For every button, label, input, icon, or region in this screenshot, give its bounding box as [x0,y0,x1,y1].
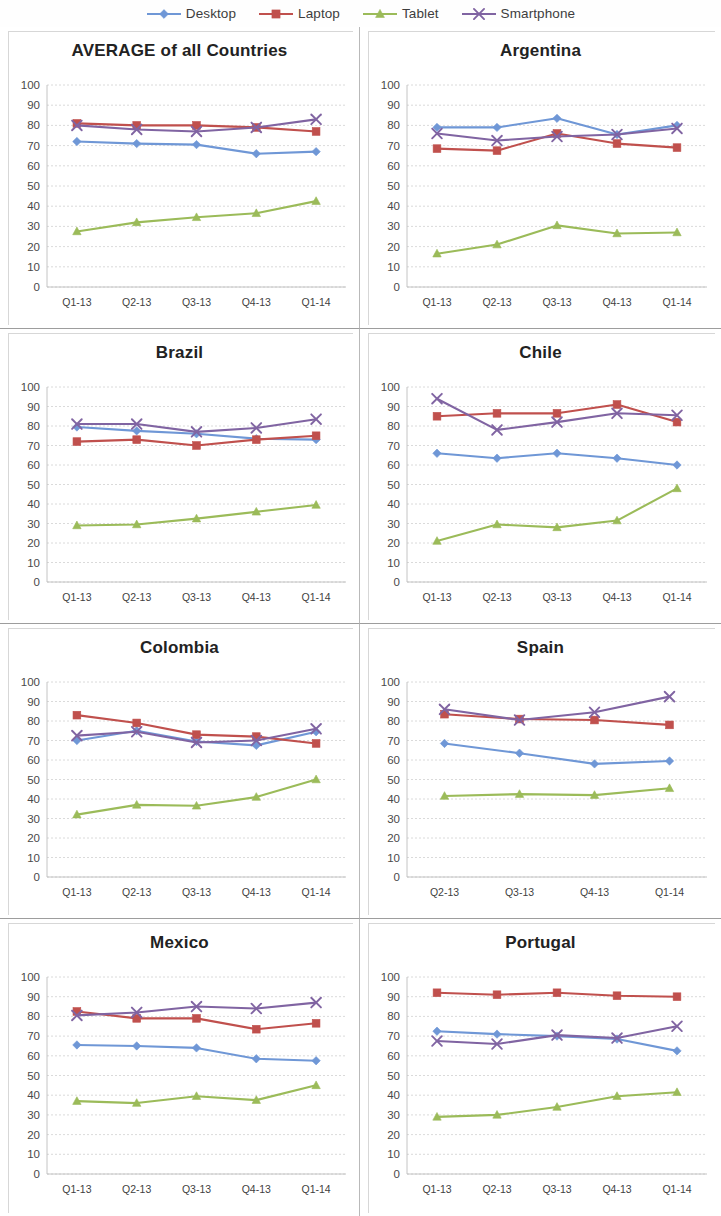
x-axis-tick: Q3-13 [542,591,571,603]
y-axis-tick: 80 [387,1010,400,1022]
x-axis-tick: Q1-14 [662,1183,691,1195]
series-desktop [73,137,321,158]
chart-title: Brazil [0,343,359,363]
y-axis-tick: 80 [387,119,400,131]
data-point [192,1044,200,1052]
data-point [673,993,681,1001]
y-axis-tick: 10 [387,852,400,864]
data-point [493,1030,501,1038]
legend-item-tablet[interactable]: Tablet [362,6,439,21]
y-axis-tick: 40 [387,200,400,212]
x-axis-tick: Q1-14 [302,886,331,898]
y-axis-tick: 90 [27,696,40,708]
data-point [252,436,260,444]
y-axis-tick: 10 [27,852,40,864]
y-axis-tick: 70 [27,140,40,152]
y-axis-tick: 30 [27,220,40,232]
data-point [73,438,81,446]
y-axis-tick: 10 [27,1148,40,1160]
y-axis-tick: 30 [387,1109,400,1121]
data-point [553,989,561,997]
y-axis-tick: 20 [27,1129,40,1141]
chart-title: Colombia [0,638,359,658]
y-axis-tick: 0 [394,1168,400,1180]
series-laptop [73,1008,320,1033]
y-axis-tick: 60 [387,754,400,766]
data-point [673,461,681,469]
chart-grid: AVERAGE of all Countries0102030405060708… [0,27,721,1216]
x-axis-tick: Q4-13 [602,591,631,603]
y-axis-tick: 60 [27,1050,40,1062]
y-axis-tick: 10 [387,1148,400,1160]
data-point [613,454,621,462]
x-axis-tick: Q1-14 [302,591,331,603]
y-axis-tick: 10 [27,557,40,569]
x-axis-tick: Q2-13 [482,296,511,308]
chart-panel-mexico: Mexico0102030405060708090100Q1-13Q2-13Q3… [0,919,360,1216]
data-point [673,484,681,492]
y-axis-tick: 80 [27,715,40,727]
legend-item-desktop[interactable]: Desktop [146,6,236,21]
series-tablet [73,1081,321,1106]
gridlines: 0102030405060708090100 [381,381,707,588]
y-axis-tick: 0 [34,1168,40,1180]
y-axis-tick: 90 [27,99,40,111]
x-axis-tick: Q1-13 [62,591,91,603]
x-axis-ticks: Q1-13Q2-13Q3-13Q4-13Q1-14 [422,1183,691,1195]
y-axis-tick: 100 [381,381,400,393]
data-point [553,449,561,457]
y-axis-tick: 40 [27,793,40,805]
x-axis-tick: Q4-13 [242,296,271,308]
data-point [673,144,681,152]
y-axis-tick: 40 [27,1089,40,1101]
x-axis-tick: Q1-13 [62,1183,91,1195]
y-axis-tick: 100 [21,79,40,91]
chart-panel-brazil: Brazil0102030405060708090100Q1-13Q2-13Q3… [0,329,360,624]
x-axis-tick: Q1-14 [662,591,691,603]
y-axis-tick: 0 [394,576,400,588]
y-axis-tick: 20 [27,537,40,549]
y-axis-tick: 60 [27,160,40,172]
series-tablet [73,197,321,235]
data-point [493,991,501,999]
data-point [73,711,81,719]
chart-panel-colombia: Colombia0102030405060708090100Q1-13Q2-13… [0,624,360,919]
x-axis-ticks: Q1-13Q2-13Q3-13Q4-13Q1-14 [62,591,331,603]
data-point [133,139,141,147]
y-axis-tick: 80 [27,119,40,131]
chart-legend: DesktopLaptopTabletSmartphone [0,0,721,27]
x-axis-ticks: Q1-13Q2-13Q3-13Q4-13Q1-14 [62,1183,331,1195]
data-point [133,436,141,444]
chart-title: Mexico [0,933,359,953]
gridlines: 0102030405060708090100 [381,676,707,883]
y-axis-tick: 0 [394,281,400,293]
y-axis-tick: 50 [27,1070,40,1082]
y-axis-tick: 100 [381,971,400,983]
y-axis-tick: 70 [387,735,400,747]
y-axis-tick: 60 [387,1050,400,1062]
series-desktop [440,739,673,768]
y-axis-tick: 40 [387,1089,400,1101]
y-axis-tick: 50 [387,774,400,786]
y-axis-tick: 50 [387,479,400,491]
x-axis-tick: Q1-13 [62,886,91,898]
gridlines: 0102030405060708090100 [21,971,346,1180]
x-axis-tick: Q1-14 [662,296,691,308]
data-point [493,123,501,131]
y-axis-tick: 90 [387,99,400,111]
legend-label: Tablet [402,6,439,21]
data-point [493,147,501,155]
data-point [433,412,441,420]
chart-title: AVERAGE of all Countries [0,41,359,61]
x-axis-tick: Q4-13 [242,886,271,898]
chart-title: Spain [360,638,721,658]
legend-item-smartphone[interactable]: Smartphone [461,6,576,21]
chart-plot: 0102030405060708090100Q1-13Q2-13Q3-13Q4-… [360,371,721,624]
y-axis-tick: 0 [34,871,40,883]
y-axis-tick: 30 [27,1109,40,1121]
x-axis-tick: Q4-13 [242,591,271,603]
legend-item-laptop[interactable]: Laptop [258,6,340,21]
data-point [312,432,320,440]
y-axis-tick: 100 [21,971,40,983]
x-axis-tick: Q2-13 [482,591,511,603]
